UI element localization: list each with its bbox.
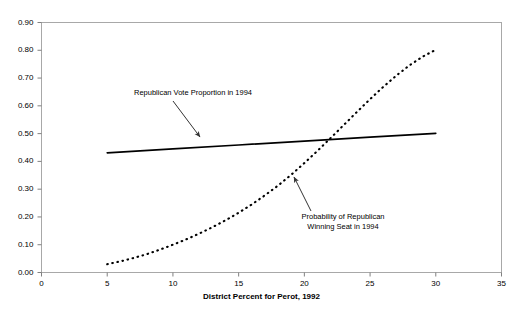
series-republican-vote-proportion-line <box>107 133 436 152</box>
annotation-probability-winning-seat-line-2: Winning Seat in 1994 <box>275 222 411 232</box>
x-axis-tick-label: 20 <box>284 280 324 288</box>
annotation-arrow-probability-winning <box>294 177 311 211</box>
y-axis-ticks <box>38 23 42 273</box>
y-axis-tick-label: 0.90 <box>0 19 34 27</box>
y-axis-tick-label: 0.40 <box>0 157 34 165</box>
chart-container: 0.000.100.200.300.400.500.600.700.800.90… <box>0 0 523 320</box>
annotation-republican-vote-proportion-line-1: Republican Vote Proportion in 1994 <box>134 88 252 98</box>
annotation-republican-vote-proportion: Republican Vote Proportion in 1994 <box>134 88 252 98</box>
x-axis-tick-label: 5 <box>87 280 127 288</box>
annotation-probability-winning-seat-line-1: Probability of Republican <box>275 212 411 222</box>
x-axis-tick-label: 25 <box>350 280 390 288</box>
plot-frame <box>42 23 502 273</box>
x-axis-tick-label: 35 <box>482 280 522 288</box>
x-axis-ticks <box>42 273 502 277</box>
y-axis-tick-label: 0.30 <box>0 185 34 193</box>
annotation-arrow-republican-vote <box>173 101 200 137</box>
y-axis-tick-label: 0.70 <box>0 74 34 82</box>
y-axis-tick-label: 0.20 <box>0 213 34 221</box>
y-axis-tick-label: 0.00 <box>0 269 34 277</box>
y-axis-tick-label: 0.60 <box>0 102 34 110</box>
x-axis-tick-label: 10 <box>153 280 193 288</box>
annotation-arrows <box>173 101 311 211</box>
y-axis-tick-label: 0.80 <box>0 46 34 54</box>
y-axis-tick-label: 0.50 <box>0 130 34 138</box>
x-axis-tick-label: 0 <box>22 280 62 288</box>
y-axis-tick-label: 0.10 <box>0 241 34 249</box>
annotation-probability-winning-seat: Probability of Republican Winning Seat i… <box>275 212 411 232</box>
x-axis-tick-label: 30 <box>416 280 456 288</box>
x-axis-title: District Percent for Perot, 1992 <box>0 293 523 301</box>
x-axis-tick-label: 15 <box>219 280 259 288</box>
chart-plot-svg <box>0 0 523 320</box>
